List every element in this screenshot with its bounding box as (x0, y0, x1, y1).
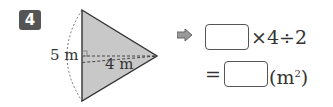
unit-text: (m (269, 66, 294, 88)
height-label: 5 m (50, 47, 79, 63)
answer-box-1[interactable] (205, 24, 249, 50)
right-arrow-icon (177, 29, 193, 41)
unit-label: (m2) (269, 64, 308, 87)
answer-box-2[interactable] (224, 61, 268, 87)
equation-line1-ops: ×4÷2 (251, 27, 307, 47)
base-label: 4 m (105, 56, 134, 72)
equals-sign: = (205, 64, 221, 84)
unit-close: ) (301, 66, 308, 88)
